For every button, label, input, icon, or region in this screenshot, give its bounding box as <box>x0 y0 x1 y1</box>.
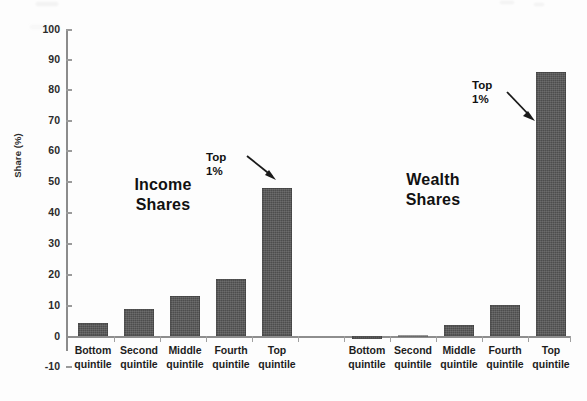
y-tick-label-10: 10 <box>26 300 60 311</box>
x-label-line2: quintile <box>68 358 118 372</box>
y-tick-label-50: 50 <box>26 176 60 187</box>
scan-artifact <box>534 3 544 6</box>
y-tick-label-30: 30 <box>26 238 60 249</box>
y-tick-label-100: 100 <box>26 24 60 35</box>
x-label-line2: quintile <box>114 358 164 372</box>
y-tick-label-0: 0 <box>26 331 60 342</box>
annotation-arrow-income-icon <box>244 152 284 184</box>
y-tick-90 <box>66 59 72 61</box>
x-label-line2: quintile <box>206 358 256 372</box>
annotation-arrow-wealth-icon <box>504 88 544 128</box>
x-label-line1: Bottom <box>68 344 118 358</box>
y-tick-100 <box>66 29 72 31</box>
x-label-line2: quintile <box>342 358 392 372</box>
x-label-line1: Fourth <box>206 344 256 358</box>
x-label-line2: quintile <box>160 358 210 372</box>
bar-wealth-fourth-quintile <box>490 305 520 336</box>
bar-wealth-second-quintile <box>398 335 428 337</box>
y-tick-label-90: 90 <box>26 54 60 65</box>
x-label-income-middle-quintile: Middle quintile <box>160 344 210 372</box>
x-label-line2: quintile <box>480 358 530 372</box>
bar-wealth-middle-quintile <box>444 325 474 336</box>
x-label-line1: Top <box>526 344 576 358</box>
y-tick-80 <box>66 89 72 91</box>
y-tick-60 <box>66 150 72 152</box>
x-label-line1: Middle <box>160 344 210 358</box>
bar-income-fourth-quintile <box>216 279 246 336</box>
group-title-income: Income Shares <box>108 175 218 216</box>
x-label-income-fourth-quintile: Fourth quintile <box>206 344 256 372</box>
x-tick <box>390 336 391 342</box>
scan-artifact <box>36 2 58 6</box>
bar-income-top-quintile <box>262 188 292 336</box>
y-axis-title: Share (%) <box>12 111 23 201</box>
y-axis-line <box>66 29 68 351</box>
y-tick-20 <box>66 274 72 276</box>
x-tick <box>570 336 571 342</box>
x-label-wealth-bottom-quintile: Bottom quintile <box>342 344 392 372</box>
scan-artifact <box>500 1 514 4</box>
x-label-line2: quintile <box>526 358 576 372</box>
annotation-income-top1pct-line1: Top <box>206 150 246 164</box>
x-label-line2: quintile <box>252 358 302 372</box>
x-tick <box>298 336 299 342</box>
x-label-line2: quintile <box>388 358 438 372</box>
y-tick-10 <box>66 305 72 307</box>
y-tick-40 <box>66 212 72 214</box>
bar-wealth-bottom-quintile <box>352 336 382 339</box>
y-tick-label-60: 60 <box>26 145 60 156</box>
x-label-wealth-middle-quintile: Middle quintile <box>434 344 484 372</box>
group-title-wealth: Wealth Shares <box>378 170 488 211</box>
x-label-line1: Second <box>114 344 164 358</box>
group-title-income-line2: Shares <box>108 195 218 215</box>
x-label-line2: quintile <box>434 358 484 372</box>
y-tick-label-minus10: -10 <box>26 361 60 372</box>
bar-income-second-quintile <box>124 309 154 336</box>
bar-income-bottom-quintile <box>78 323 108 336</box>
y-tick-label-20: 20 <box>26 269 60 280</box>
x-label-wealth-fourth-quintile: Fourth quintile <box>480 344 530 372</box>
x-tick <box>436 336 437 342</box>
x-tick <box>252 336 253 342</box>
x-label-line1: Middle <box>434 344 484 358</box>
x-label-wealth-top-quintile: Top quintile <box>526 344 576 372</box>
x-label-line1: Bottom <box>342 344 392 358</box>
annotation-income-top1pct: Top 1% <box>206 150 246 178</box>
x-label-line1: Top <box>252 344 302 358</box>
y-tick-30 <box>66 243 72 245</box>
x-label-income-top-quintile: Top quintile <box>252 344 302 372</box>
x-tick <box>114 336 115 342</box>
x-tick <box>206 336 207 342</box>
y-tick-label-70: 70 <box>26 115 60 126</box>
y-tick-50 <box>66 181 72 183</box>
x-label-income-bottom-quintile: Bottom quintile <box>68 344 118 372</box>
group-title-wealth-line2: Shares <box>378 190 488 210</box>
x-label-line1: Fourth <box>480 344 530 358</box>
y-tick-label-80: 80 <box>26 84 60 95</box>
group-title-income-line1: Income <box>108 175 218 195</box>
x-label-income-second-quintile: Second quintile <box>114 344 164 372</box>
bar-income-middle-quintile <box>170 296 200 336</box>
x-tick <box>482 336 483 342</box>
x-tick <box>160 336 161 342</box>
annotation-income-top1pct-line2: 1% <box>206 164 246 178</box>
chart-figure: Share (%) 100 90 80 70 60 50 40 30 20 10… <box>0 0 587 401</box>
group-title-wealth-line1: Wealth <box>378 170 488 190</box>
x-tick <box>344 336 345 342</box>
y-tick-label-40: 40 <box>26 207 60 218</box>
y-tick-70 <box>66 120 72 122</box>
x-label-wealth-second-quintile: Second quintile <box>388 344 438 372</box>
x-tick <box>528 336 529 342</box>
zero-baseline <box>66 336 571 338</box>
x-label-line1: Second <box>388 344 438 358</box>
